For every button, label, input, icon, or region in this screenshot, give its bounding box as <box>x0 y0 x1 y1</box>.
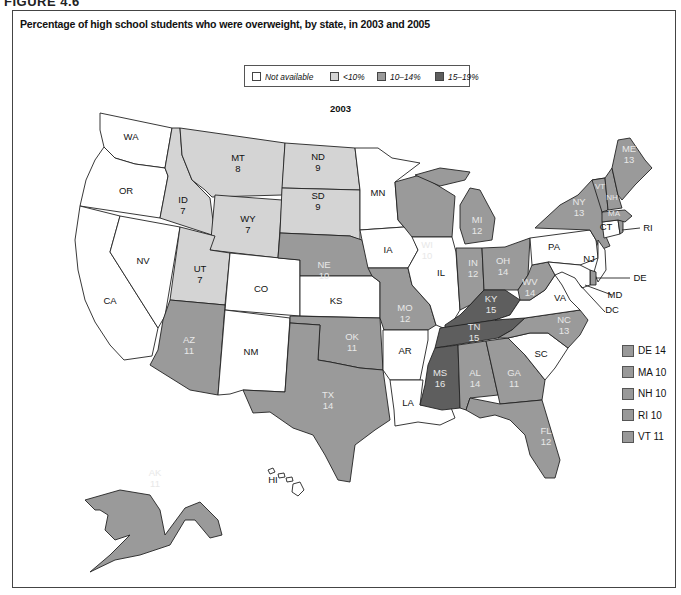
label-GA: GA <box>507 367 521 378</box>
small-states-legend: DE 14 MA 10 NH 10 RI 10 VT 11 <box>622 340 666 448</box>
label-TN: TN <box>468 321 481 332</box>
label-NC: NC <box>557 314 571 325</box>
label-MS: MS <box>433 367 447 378</box>
value-IN: 12 <box>468 268 479 279</box>
small-state-item: MA 10 <box>622 362 666 384</box>
label-SD: SD <box>311 190 324 201</box>
label-NV: NV <box>136 255 150 266</box>
label-MT: MT <box>231 152 245 163</box>
label-NJ: NJ <box>583 253 595 264</box>
small-state-item: RI 10 <box>622 405 666 427</box>
value-MT: 8 <box>235 163 240 174</box>
label-FL: FL <box>540 425 551 436</box>
label-RI: RI <box>643 222 653 233</box>
value-MI: 12 <box>472 225 483 236</box>
label-ID: ID <box>178 194 188 205</box>
label-VA: VA <box>554 292 567 303</box>
small-state-item: NH 10 <box>622 383 666 405</box>
label-ME: ME <box>622 143 636 154</box>
label-TX: TX <box>322 389 335 400</box>
label-NY: NY <box>572 196 586 207</box>
label-DE: DE <box>633 272 646 283</box>
value-ND: 9 <box>315 162 320 173</box>
label-UT: UT <box>194 263 207 274</box>
swatch-icon <box>622 409 634 421</box>
value-NY: 13 <box>574 207 585 218</box>
value-AZ: 11 <box>184 345 194 356</box>
label-MD: MD <box>608 289 623 300</box>
value-SD: 9 <box>315 201 320 212</box>
label-OK: OK <box>345 331 359 342</box>
value-AL: 14 <box>470 378 481 389</box>
label-CT: CT <box>600 221 613 232</box>
label-IA: IA <box>384 244 394 255</box>
us-map: WA OR CA NV ID 7 MT 8 WY 7 UT 7 CO NM ND… <box>0 0 681 595</box>
label-AR: AR <box>398 345 411 356</box>
value-OH: 14 <box>498 266 509 277</box>
small-state-item: DE 14 <box>622 340 666 362</box>
label-CO: CO <box>254 283 268 294</box>
label-SC: SC <box>534 348 547 359</box>
label-HI: HI <box>268 474 278 485</box>
value-TX: 14 <box>323 400 334 411</box>
label-MA: MA <box>608 209 621 218</box>
label-LA: LA <box>402 397 414 408</box>
label-VT: VT <box>595 182 605 191</box>
label-NE: NE <box>317 259 330 270</box>
label-AZ: AZ <box>183 334 195 345</box>
label-AL: AL <box>469 367 481 378</box>
value-KY: 15 <box>486 304 497 315</box>
label-IN: IN <box>468 257 478 268</box>
label-OR: OR <box>119 185 133 196</box>
value-WI: 10 <box>422 250 433 261</box>
value-NE: 10 <box>319 270 330 281</box>
value-AK: 11 <box>150 478 160 489</box>
label-WA: WA <box>124 131 140 142</box>
value-MS: 16 <box>435 378 446 389</box>
label-KS: KS <box>330 295 343 306</box>
value-ID: 7 <box>180 205 185 216</box>
swatch-icon <box>622 431 634 443</box>
label-NH: NH <box>606 193 618 202</box>
value-OK: 11 <box>347 342 357 353</box>
swatch-icon <box>622 366 634 378</box>
small-state-item: VT 11 <box>622 426 666 448</box>
swatch-icon <box>622 345 634 357</box>
value-MO: 12 <box>400 313 411 324</box>
label-WY: WY <box>240 213 256 224</box>
label-KY: KY <box>485 293 498 304</box>
value-UT: 7 <box>197 274 202 285</box>
label-OH: OH <box>496 255 510 266</box>
state-DE <box>590 270 596 285</box>
value-GA: 11 <box>509 378 519 389</box>
value-WV: 14 <box>525 287 536 298</box>
label-ND: ND <box>311 151 325 162</box>
label-MI: MI <box>472 214 483 225</box>
value-ME: 13 <box>624 154 635 165</box>
value-FL: 12 <box>541 436 552 447</box>
swatch-icon <box>622 388 634 400</box>
value-TN: 15 <box>469 332 480 343</box>
label-MO: MO <box>397 302 412 313</box>
label-AK: AK <box>149 467 162 478</box>
label-NM: NM <box>244 346 259 357</box>
label-DC: DC <box>605 304 619 315</box>
label-MN: MN <box>371 187 386 198</box>
label-PA: PA <box>548 241 561 252</box>
label-CA: CA <box>103 295 117 306</box>
value-NC: 13 <box>559 325 570 336</box>
state-AK <box>85 490 222 572</box>
label-WI: WI <box>421 239 433 250</box>
value-WY: 7 <box>245 224 250 235</box>
label-IL: IL <box>437 267 445 278</box>
label-WV: WV <box>522 276 538 287</box>
